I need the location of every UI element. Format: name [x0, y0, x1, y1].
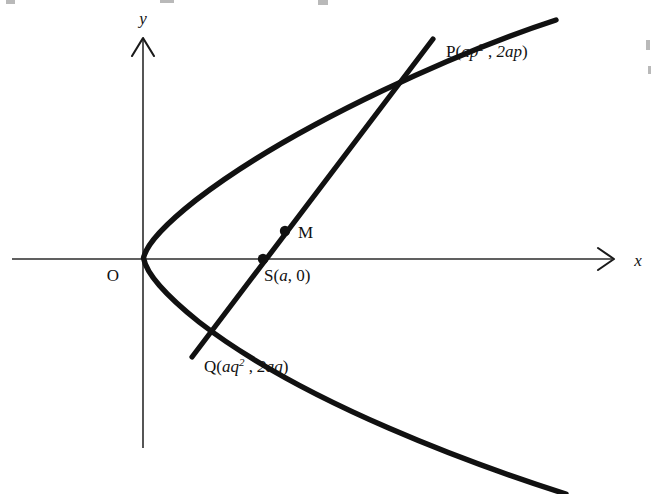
- paren-close-Q: ): [283, 357, 289, 376]
- point-label-M: M: [298, 223, 313, 242]
- point-label-P: P(ap2 , 2ap): [446, 41, 528, 61]
- point-dot-M: [280, 226, 290, 236]
- x-axis-label: x: [633, 251, 642, 270]
- scan-artifacts: [6, 0, 651, 74]
- point-label-S-x: a: [279, 266, 288, 285]
- point-dot-S: [258, 254, 268, 264]
- point-label-Q-x: aq: [222, 357, 240, 376]
- paren-close-S: ): [305, 266, 311, 285]
- point-label-S: S(a, 0): [264, 266, 310, 285]
- separator-S: ,: [288, 266, 297, 285]
- point-label-P-y: 2ap: [496, 42, 522, 61]
- point-label-Q-y: 2aq: [257, 357, 283, 376]
- point-label-P-x: ap: [461, 42, 478, 61]
- origin-label: O: [107, 266, 119, 285]
- y-axis-label: y: [137, 9, 147, 28]
- separator-P: ,: [484, 42, 497, 61]
- parabola-figure: x y O P(ap2 , 2ap) M S(a, 0) Q(aq2 , 2aq…: [0, 0, 660, 494]
- point-label-Q: Q(aq2 , 2aq): [204, 356, 288, 376]
- parabola-curve: [144, 20, 567, 494]
- paren-close-P: ): [522, 42, 528, 61]
- point-label-S-name: S: [264, 266, 273, 285]
- diagram-canvas: x y O P(ap2 , 2ap) M S(a, 0) Q(aq2 , 2aq…: [0, 0, 660, 494]
- separator-Q: ,: [244, 357, 257, 376]
- point-label-Q-name: Q: [204, 357, 216, 376]
- point-label-P-name: P: [446, 42, 455, 61]
- focal-chord-line: [192, 39, 433, 357]
- point-label-S-y: 0: [296, 266, 305, 285]
